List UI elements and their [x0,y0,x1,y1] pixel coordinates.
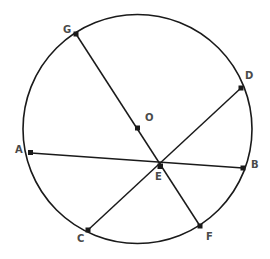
point-marker-c [86,228,91,233]
point-label-o: O [145,113,154,123]
point-label-b: B [251,160,259,170]
point-marker-o [135,126,140,131]
point-marker-f [198,224,203,229]
point-label-g: G [63,25,71,35]
chord-ab-line [31,153,243,168]
point-label-e: E [155,172,162,182]
point-marker-e [158,164,164,170]
chord-group [31,34,243,230]
point-marker-d [239,86,244,91]
point-label-d: D [245,71,254,81]
point-label-a: A [15,145,23,155]
point-marker-g [74,32,79,37]
point-marker-a [28,150,33,155]
geometry-figure: A B C D E F G O [0,0,270,259]
point-label-f: F [206,232,213,242]
point-label-c: C [77,234,85,244]
point-marker-b [241,166,246,171]
geometry-canvas [0,0,270,259]
point-marker-group [28,32,246,233]
